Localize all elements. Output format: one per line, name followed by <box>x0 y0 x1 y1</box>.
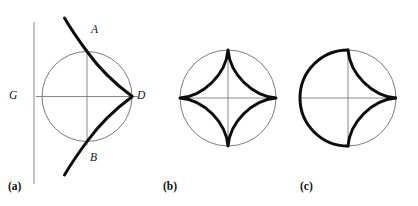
figure-container: A B D G (a) (b) (c) <box>0 0 418 206</box>
curve-lower-branch-a <box>65 97 133 175</box>
panel-a-diagram <box>0 0 150 206</box>
panel-caption-a: (a) <box>8 181 21 193</box>
panel-c-diagram <box>278 0 418 206</box>
panel-caption-b: (b) <box>163 181 177 193</box>
point-label-b: B <box>90 152 97 164</box>
point-label-a: A <box>91 24 98 36</box>
panel-caption-c: (c) <box>300 181 313 193</box>
concave-arc-upper-right-c <box>348 50 396 98</box>
curve-upper-branch-a <box>65 18 133 96</box>
panel-b-diagram <box>140 0 278 206</box>
concave-arc-lower-right-c <box>348 98 396 146</box>
point-label-g: G <box>9 90 17 102</box>
